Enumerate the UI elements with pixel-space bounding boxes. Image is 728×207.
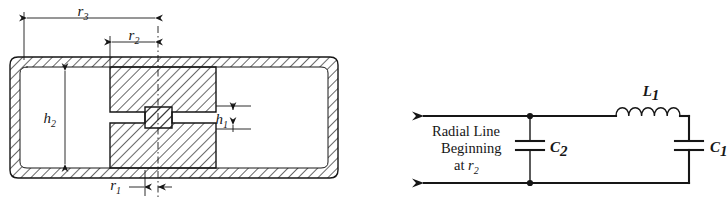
figure-root: r3 r2 r1 h2 — [0, 0, 728, 207]
junction-dot-top — [527, 113, 533, 119]
capacitor-C1: C1 — [675, 139, 728, 183]
dimension-label-h2: h2 — [44, 110, 57, 129]
dimension-h1: h1 — [216, 103, 252, 132]
capacitor-C2: C2 — [516, 116, 568, 183]
inductor-L1: L1 — [616, 83, 680, 116]
dimension-label-r3: r3 — [78, 3, 89, 22]
dimension-label-r1: r1 — [110, 177, 121, 196]
circuit-caption: Radial Line Beginning at r2 — [432, 123, 501, 176]
dimension-r3: r3 — [24, 3, 155, 60]
caption-line-3: at r2 — [454, 157, 479, 176]
caption-line-2: Beginning — [441, 140, 501, 156]
capacitor-label-C1: C1 — [710, 139, 728, 159]
dimension-label-h1: h1 — [216, 111, 229, 130]
junction-dot-bottom — [527, 180, 533, 186]
caption-line-1: Radial Line — [432, 123, 500, 139]
cavity-cross-section: r3 r2 r1 h2 — [0, 0, 364, 207]
dimension-label-r2: r2 — [129, 27, 140, 46]
inductor-label-L1: L1 — [642, 83, 660, 103]
dimension-h2: h2 — [44, 71, 66, 164]
lower-reentrant-post — [110, 107, 216, 168]
capacitor-label-C2: C2 — [550, 139, 568, 159]
equivalent-circuit: L1 C1 C2 — [364, 0, 728, 207]
